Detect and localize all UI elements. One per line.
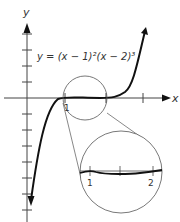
inset-tick-label-2: 2 — [148, 178, 154, 188]
y-axis — [22, 23, 32, 222]
inset-magnified-view: 1 2 — [80, 131, 162, 213]
diagram-canvas: x y y = (x − 1)²(x − 2)³ 1 — [0, 0, 180, 222]
connector-line-left — [63, 103, 81, 178]
y-axis-label: y — [22, 6, 30, 19]
y-axis-arrow-icon — [24, 23, 31, 33]
equation-label: y = (x − 1)²(x − 2)³ — [36, 51, 135, 62]
x-axis-label: x — [171, 92, 179, 105]
x-axis-arrow-icon — [162, 95, 171, 102]
curve-arrow-up-icon — [141, 27, 148, 35]
curve-arrow-down-icon — [28, 196, 35, 206]
inset-tick-label-1: 1 — [87, 178, 93, 188]
